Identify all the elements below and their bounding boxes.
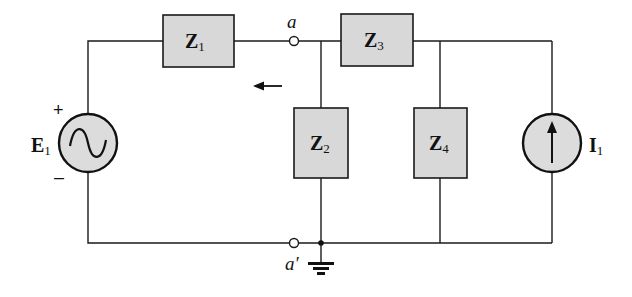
polarity-minus: – [54,168,64,186]
wire-e1-to-aprime [88,172,290,243]
junction-dot [318,240,324,246]
ground-icon [308,262,334,275]
z3-label: Z3 [364,30,384,52]
e1-label: E1 [31,135,51,157]
arrow-left-icon [253,82,264,91]
i1-label: I1 [589,135,603,157]
terminal-a [290,37,299,46]
z1-label: Z1 [185,31,205,53]
terminal-a-prime [290,239,299,248]
wire-e1-to-z1 [88,41,163,114]
circuit-diagram: Z1 Z3 Z2 Z4 E1 + – I1 a a′ [0,0,632,297]
z2-label: Z2 [310,133,330,155]
terminal-a-prime-label: a′ [285,254,299,273]
z4-label: Z4 [429,133,449,155]
terminal-a-label: a [287,12,297,31]
polarity-plus: + [53,101,64,119]
